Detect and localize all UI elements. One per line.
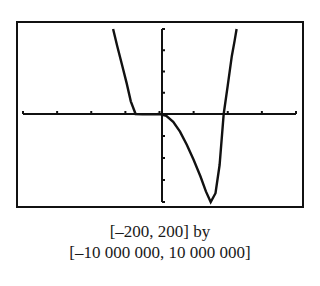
- function-curve: [113, 29, 237, 202]
- axis-ticks: [23, 29, 296, 202]
- window-x-range: [–200, 200] by: [0, 222, 320, 242]
- calculator-graph: [0, 0, 320, 220]
- axes: [23, 29, 296, 202]
- window-y-range: [–10 000 000, 10 000 000]: [0, 243, 320, 263]
